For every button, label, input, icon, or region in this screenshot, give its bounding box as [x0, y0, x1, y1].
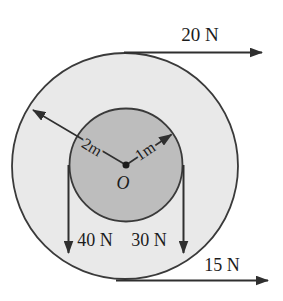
center-point [123, 162, 130, 169]
center-label-o: O [117, 173, 130, 193]
force-label-15n: 15 N [204, 255, 240, 275]
force-label-20n: 20 N [181, 24, 219, 45]
force-label-40n: 40 N [77, 230, 113, 250]
torque-diagram: 20 N 15 N 40 N 30 N 2m 1m O [0, 0, 283, 301]
physics-diagram-canvas: 20 N 15 N 40 N 30 N 2m 1m O [0, 0, 283, 301]
force-label-30n: 30 N [131, 230, 167, 250]
